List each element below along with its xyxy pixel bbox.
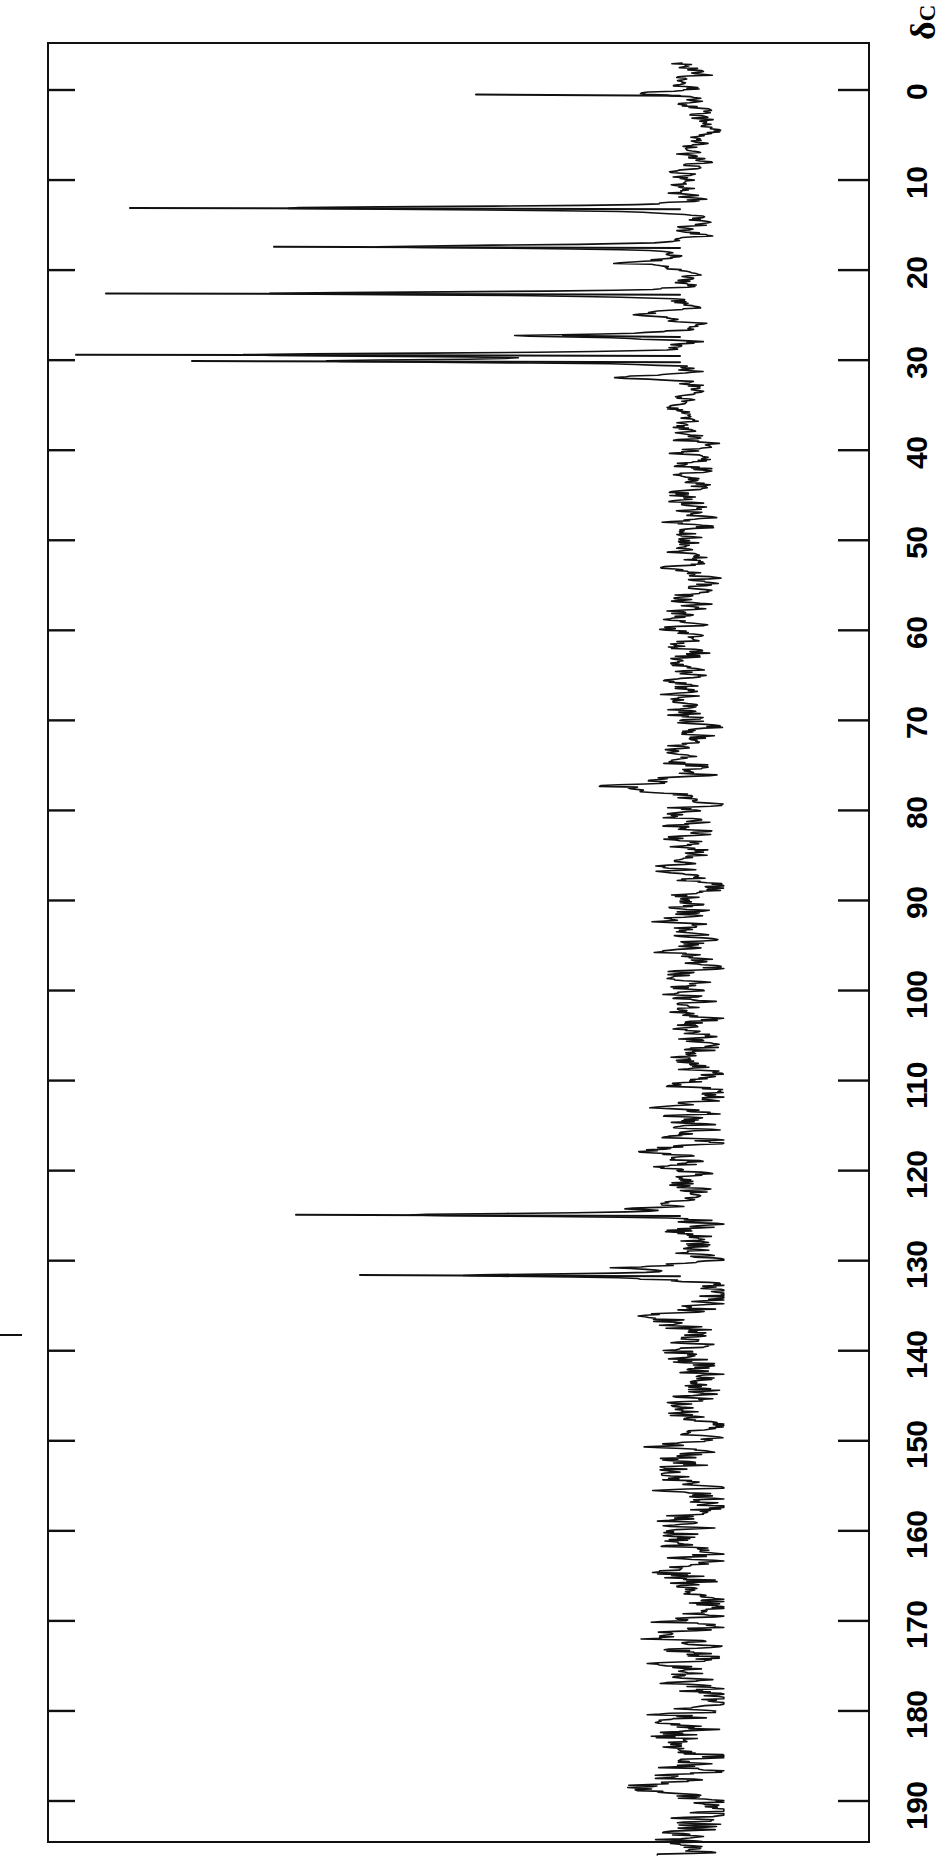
- peak-roof: [130, 208, 680, 209]
- peak-roof: [274, 247, 680, 248]
- peak-roof: [76, 355, 680, 356]
- axis-tick-label: 120: [900, 1151, 934, 1200]
- axis-tick-label: 110: [900, 1062, 934, 1109]
- axis-tick-label: 150: [900, 1421, 934, 1470]
- axis-tick-label: 100: [900, 970, 934, 1019]
- axis-label-delta-c: δC: [902, 5, 940, 40]
- axis-tick-label: 30: [900, 347, 934, 379]
- axis-tick-label: 0: [900, 83, 934, 99]
- axis-tick-label: 10: [900, 167, 934, 199]
- peak-roof: [296, 1215, 680, 1216]
- spectrum-trace-path: [243, 63, 724, 1855]
- spectrum-trace: [76, 63, 724, 1855]
- axis-label-delta-symbol: δ: [903, 21, 940, 40]
- axis-tick-marks: [47, 90, 870, 1801]
- axis-tick-label: 60: [900, 617, 934, 649]
- peak-roof: [563, 336, 680, 337]
- axis-tick-label: 170: [900, 1601, 934, 1650]
- peak-roof: [106, 294, 680, 295]
- axis-tick-label: 50: [900, 527, 934, 559]
- axis-tick-label: 80: [900, 797, 934, 829]
- axis-tick-label: 40: [900, 437, 934, 469]
- axis-tick-label: 190: [900, 1781, 934, 1830]
- axis-tick-label: 140: [900, 1331, 934, 1380]
- peak-roof: [476, 95, 680, 96]
- axis-tick-label: 130: [900, 1241, 934, 1290]
- axis-tick-label: 90: [900, 887, 934, 919]
- axis-tick-label: 180: [900, 1691, 934, 1740]
- axis-tick-label: 70: [900, 707, 934, 739]
- axis-tick-label: 20: [900, 257, 934, 289]
- axis-tick-label: 160: [900, 1511, 934, 1560]
- peak-roof: [360, 1275, 680, 1276]
- axis-label-delta-subscript: C: [915, 5, 940, 22]
- peak-roof: [192, 361, 680, 362]
